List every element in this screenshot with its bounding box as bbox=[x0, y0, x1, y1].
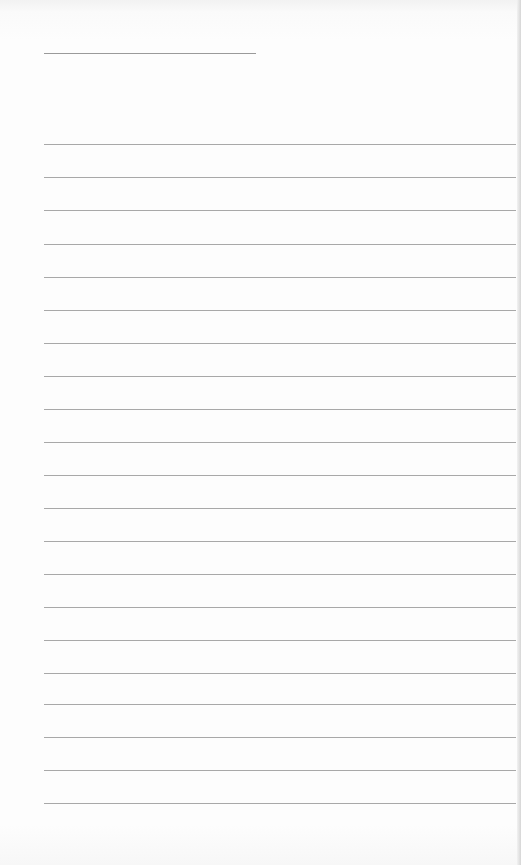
ruled-line bbox=[44, 244, 516, 245]
ruled-line bbox=[44, 673, 516, 674]
lined-paper-sheet bbox=[0, 0, 521, 865]
ruled-line bbox=[44, 376, 516, 377]
ruled-line bbox=[44, 737, 516, 738]
ruled-line bbox=[44, 277, 516, 278]
ruled-line bbox=[44, 310, 516, 311]
ruled-line bbox=[44, 144, 516, 145]
ruled-line bbox=[44, 343, 516, 344]
ruled-line bbox=[44, 475, 516, 476]
ruled-line bbox=[44, 574, 516, 575]
ruled-line bbox=[44, 704, 516, 705]
ruled-line bbox=[44, 541, 516, 542]
ruled-line bbox=[44, 442, 516, 443]
page-edge-shadow bbox=[517, 0, 521, 865]
ruled-line bbox=[44, 177, 516, 178]
ruled-line bbox=[44, 640, 516, 641]
title-line bbox=[44, 53, 256, 54]
ruled-line bbox=[44, 770, 516, 771]
ruled-line bbox=[44, 409, 516, 410]
ruled-line bbox=[44, 803, 516, 804]
ruled-line bbox=[44, 607, 516, 608]
ruled-line bbox=[44, 508, 516, 509]
ruled-line bbox=[44, 210, 516, 211]
